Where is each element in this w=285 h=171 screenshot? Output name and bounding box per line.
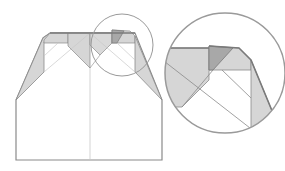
main-model (16, 30, 162, 160)
detail-view (160, 10, 285, 140)
origami-diagram (0, 0, 285, 171)
